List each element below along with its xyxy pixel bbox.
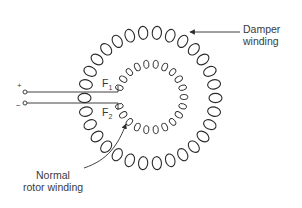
coil-loop: [110, 33, 124, 49]
rotor-winding-coil: [115, 60, 188, 134]
coil-loop: [186, 139, 202, 155]
coil-loop: [89, 52, 105, 67]
coil-loop: [164, 28, 177, 43]
coil-loop: [143, 125, 149, 134]
coil-loop: [186, 41, 202, 57]
coil-loop: [178, 84, 187, 91]
rotor-label-line2: rotor winding: [23, 181, 83, 193]
rotor-label-line1: Normal: [36, 169, 70, 181]
positive-terminal: [23, 90, 27, 94]
coil-loop: [202, 118, 218, 132]
coil-loop: [176, 33, 190, 49]
damper-label-line2: winding: [243, 35, 279, 47]
f2-label: F2: [102, 106, 112, 123]
coil-loop: [118, 110, 128, 119]
coil-loop: [82, 65, 98, 79]
minus-sign: −: [16, 100, 21, 112]
coil-loop: [115, 103, 124, 110]
coil-loop: [115, 84, 124, 91]
coil-loop: [125, 117, 134, 126]
coil-loop: [118, 75, 128, 84]
damper-winding-coil: [78, 26, 222, 170]
f1-subscript: 1: [108, 84, 112, 91]
plus-sign: +: [17, 80, 22, 92]
coil-loop: [123, 153, 136, 168]
coil-loop: [152, 156, 163, 170]
coil-loop: [152, 26, 163, 40]
damper-label-line1: Damper: [243, 23, 280, 35]
coil-loop: [153, 60, 159, 69]
f1-label: F1: [102, 77, 112, 94]
coil-loop: [143, 60, 149, 69]
coil-loop: [138, 156, 149, 170]
coil-loop: [79, 79, 94, 91]
coil-loop: [168, 67, 177, 76]
coil-loop: [164, 153, 177, 168]
coil-loop: [161, 122, 169, 131]
coil-loop: [180, 94, 188, 99]
coil-loop: [174, 75, 184, 84]
coil-loop: [133, 122, 141, 131]
coil-loop: [82, 118, 98, 132]
coil-loop: [178, 103, 187, 110]
coil-loop: [161, 62, 169, 71]
coil-loop: [168, 117, 177, 126]
coil-loop: [133, 62, 141, 71]
coil-loop: [123, 28, 136, 43]
coil-loop: [153, 125, 159, 134]
coil-loop: [125, 67, 134, 76]
coil-loop: [195, 129, 211, 144]
f2-subscript: 2: [108, 113, 112, 120]
rotor-pointer-arrow: [84, 124, 126, 168]
coil-loop: [202, 65, 218, 79]
coil-loop: [176, 147, 190, 163]
coil-loop: [79, 106, 94, 118]
coil-loop: [98, 139, 114, 155]
coil-loop: [207, 106, 222, 118]
coil-loop: [78, 93, 91, 102]
coil-loop: [89, 129, 105, 144]
coil-loop: [98, 41, 114, 57]
negative-terminal: [23, 101, 27, 105]
coil-loop: [174, 110, 184, 119]
coil-loop: [138, 26, 149, 40]
coil-loop: [195, 52, 211, 67]
coil-loop: [209, 93, 222, 102]
coil-loop: [207, 79, 222, 91]
